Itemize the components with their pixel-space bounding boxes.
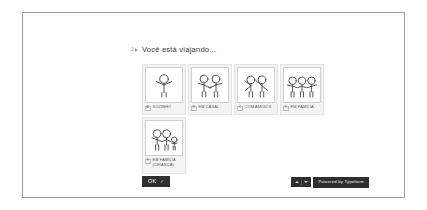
option-label-row: A SOZINHO [145,105,183,113]
option-card-em-familia-crianca[interactable]: E EM FAMÍLIA (CRIANÇA) [142,117,186,174]
single-person-icon [145,67,183,103]
option-key-badge: A [145,106,151,112]
option-card-em-familia[interactable]: D EM FAMÍLIA [280,64,324,115]
option-label-row: B EM CASAL [191,105,229,113]
family-with-child-icon [145,120,183,156]
check-icon: ✓ [160,179,164,184]
option-label-row: E EM FAMÍLIA (CRIANÇA) [145,158,183,172]
option-key-badge: D [283,106,289,112]
couple-icon [191,67,229,103]
option-card-list: A SOZINHO [142,64,342,174]
arrow-right-icon [135,48,138,52]
friends-waving-icon [237,67,275,103]
option-card-em-casal[interactable]: B EM CASAL [188,64,232,115]
question-header: 1 Você está viajando... [131,46,216,54]
option-label: EM FAMÍLIA [291,105,314,110]
option-label: EM FAMÍLIA (CRIANÇA) [153,158,184,168]
option-key-badge: B [191,106,197,112]
chevron-down-icon[interactable] [304,181,308,183]
branding-row: Powered by Typeform [291,177,369,188]
option-label: COM AMIGOS [245,105,272,110]
ok-button[interactable]: OK ✓ [142,176,170,187]
powered-by-typeform-badge[interactable]: Powered by Typeform [313,177,369,188]
submit-row: OK ✓ [142,176,170,187]
chevron-up-icon[interactable] [295,181,299,183]
option-label-row: D EM FAMÍLIA [283,105,321,113]
question-text: Você está viajando... [142,46,216,54]
nav-divider [301,180,302,185]
screenshot-root: 1 Você está viajando... [0,0,427,210]
option-key-badge: E [145,159,151,165]
option-label-row: C COM AMIGOS [237,105,275,113]
family-three-icon [283,67,321,103]
question-number-group: 1 [131,47,138,52]
option-card-com-amigos[interactable]: C COM AMIGOS [234,64,278,115]
question-number: 1 [131,47,134,52]
option-label: SOZINHO [153,105,172,110]
form-frame: 1 Você está viajando... [22,12,405,198]
ok-button-label: OK [148,179,157,184]
nav-arrows-button[interactable] [291,177,311,187]
option-card-sozinho[interactable]: A SOZINHO [142,64,186,115]
option-key-badge: C [237,106,243,112]
option-label: EM CASAL [199,105,220,110]
